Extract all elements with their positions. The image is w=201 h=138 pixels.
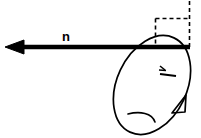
diagram-canvas: n — [0, 0, 201, 138]
background — [0, 0, 201, 138]
normal-vector-label: n — [62, 29, 70, 44]
diagram-svg: n — [0, 0, 201, 138]
